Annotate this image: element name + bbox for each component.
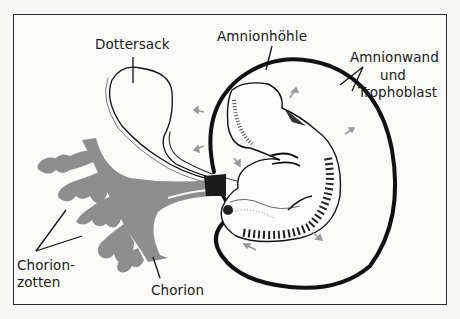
label-chorionzotten-line1: Chorion-	[17, 258, 75, 273]
label-dottersack: Dottersack	[95, 37, 170, 52]
label-trophoblast: Trophoblast	[358, 85, 437, 100]
label-amnionhoehle: Amnionhöhle	[217, 29, 307, 44]
label-amnionwand: Amnionwand	[350, 50, 439, 65]
label-und: und	[380, 68, 406, 83]
chorion-shape	[37, 138, 212, 272]
dottersack-loop	[106, 67, 212, 184]
label-chorionzotten-line2: zotten	[17, 275, 60, 290]
label-chorion: Chorion	[151, 283, 204, 298]
